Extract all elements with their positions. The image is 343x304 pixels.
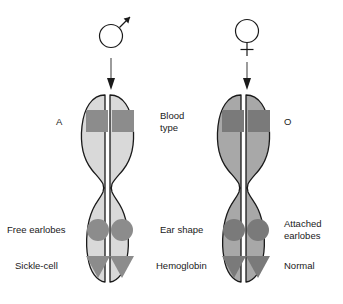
male-symbol <box>100 17 131 48</box>
maternal-gene-marker-blood-type-right <box>248 110 270 132</box>
diagram-canvas <box>0 0 343 304</box>
paternal-blood-type-allele-label: A <box>56 116 62 128</box>
trait-label-ear-shape: Ear shape <box>160 224 203 236</box>
paternal-gene-marker-blood-type-left <box>86 110 108 132</box>
maternal-ear-shape-allele-label: Attached earlobes <box>284 218 322 242</box>
paternal-gene-marker-ear-shape-right <box>111 219 133 241</box>
maternal-gene-marker-blood-type-left <box>222 110 244 132</box>
inheritance-arrow-from-mother <box>243 62 251 90</box>
paternal-gene-marker-ear-shape-left <box>87 219 109 241</box>
trait-label-hemoglobin: Hemoglobin <box>156 260 207 272</box>
paternal-hemoglobin-allele-label: Sickle-cell <box>15 260 58 272</box>
maternal-gene-marker-ear-shape-left <box>223 219 245 241</box>
trait-label-blood-type: Blood type <box>160 110 184 134</box>
maternal-gene-marker-ear-shape-right <box>247 219 269 241</box>
paternal-ear-shape-allele-label: Free earlobes <box>7 224 66 236</box>
maternal-hemoglobin-allele-label: Normal <box>284 260 315 272</box>
maternal-blood-type-allele-label: O <box>284 116 291 128</box>
maternal-chromosome <box>217 95 270 282</box>
female-symbol <box>236 20 259 57</box>
genetics-chromosome-diagram: A Free earlobes Sickle-cell Blood type E… <box>0 0 343 304</box>
paternal-gene-marker-blood-type-right <box>112 110 134 132</box>
paternal-chromosome <box>81 95 134 282</box>
inheritance-arrow-from-father <box>107 58 115 90</box>
